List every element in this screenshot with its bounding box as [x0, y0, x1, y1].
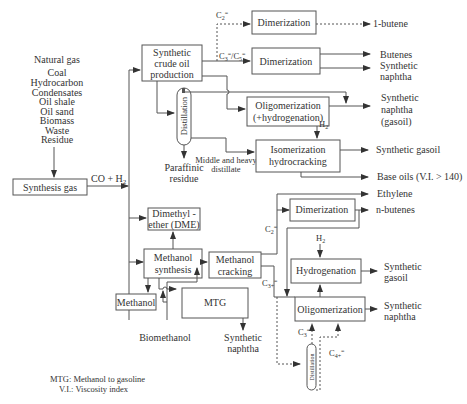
isomerization-label-2: hydrocracking — [269, 156, 327, 167]
crude-label-3: production — [150, 69, 193, 80]
arrow-to-base-oils — [301, 172, 368, 177]
c2-label-top: C2= — [216, 10, 229, 21]
dme-label-2: ether (DME) — [148, 219, 199, 231]
mtg-naphtha-label-2: naphtha — [227, 343, 259, 354]
product-naphtha-gasoil-2: naphtha — [381, 104, 413, 115]
c3plus-label: C3+= — [262, 278, 278, 289]
product-ethylene: Ethylene — [377, 188, 413, 199]
product-synthetic-naphtha-1: Synthetic — [380, 60, 418, 71]
distillation-small-label: Distillation — [309, 354, 315, 381]
arrow-middle-distillate — [191, 138, 254, 152]
product-synthetic-naphtha-2: naphtha — [380, 71, 412, 82]
distillation-label: Distillation — [179, 96, 189, 135]
product-synthetic-gasoil-b1: Synthetic — [384, 261, 422, 272]
olig-hyd-label-2: (+hydrogenation) — [253, 112, 323, 124]
product-base-oils: Base oils (V.I. > 140) — [377, 171, 462, 183]
product-n-butenes: n-butenes — [376, 204, 415, 215]
crude-label-2: crude oil — [154, 58, 189, 69]
dimerization-mid-label: Dimerization — [260, 56, 313, 67]
process-flow-diagram: Natural gas Coal Hydrocarbon Condensates… — [0, 0, 467, 404]
feedstock-natural-gas: Natural gas — [34, 54, 80, 65]
dimerization-low-label: Dimerization — [296, 204, 349, 215]
h2-label-lower: H2 — [316, 233, 325, 244]
product-synthetic-gasoil-b2: gasoil — [384, 272, 408, 283]
isomerization-label-1: Isomerization — [271, 144, 326, 155]
legend-mtg: MTG: Methanol to gasoline — [50, 374, 145, 384]
dimerization-top-label: Dimerization — [258, 17, 311, 28]
mtg-naphtha-label-1: Synthetic — [224, 332, 262, 343]
c3-c5-label: C3=/C5= — [219, 51, 246, 62]
methanol-synthesis-label-2: synthesis — [155, 264, 192, 275]
oligomerization-label: Oligomerization — [297, 304, 363, 315]
methanol-cracking-label-1: Methanol — [216, 254, 255, 265]
product-naphtha-gasoil-3: (gasoil) — [381, 116, 412, 128]
olig-hyd-label-1: Oligomerization — [255, 100, 321, 111]
c2-label-low: C2= — [265, 224, 278, 235]
hydrogenation-label: Hydrogenation — [296, 265, 356, 276]
middle-distillate-label-2: distillate — [211, 164, 241, 174]
arrow-crude-to-distillation — [157, 81, 174, 113]
product-synthetic-gasoil: Synthetic gasoil — [376, 144, 440, 155]
paraffinic-label-2: residue — [170, 173, 199, 184]
synthesis-gas-label: Synthesis gas — [23, 182, 77, 193]
product-synthetic-naphtha-b2: naphtha — [384, 311, 416, 322]
c3-label: C3= — [298, 327, 311, 338]
product-naphtha-gasoil-1: Synthetic — [381, 92, 419, 103]
feedstock-list: Natural gas Coal Hydrocarbon Condensates… — [31, 54, 84, 145]
legend-vi: V.I.: Viscosity index — [59, 384, 129, 394]
biomethanol-label: Biomethanol — [139, 332, 191, 343]
methanol-cracking-label-2: cracking — [218, 266, 252, 277]
dme-label-1: Dimethyl - — [152, 208, 196, 219]
co-h2-label: CO + H2 — [91, 173, 127, 186]
methanol-synthesis-label-1: Methanol — [154, 252, 193, 263]
crude-label-1: Synthetic — [153, 47, 191, 58]
methanol-label: Methanol — [117, 297, 156, 308]
product-butenes: Butenes — [380, 49, 412, 60]
c4plus-label: C4+= — [329, 348, 345, 359]
mtg-label: MTG — [204, 297, 226, 308]
product-1-butene: 1-butene — [373, 18, 409, 29]
feedstock-residue: Residue — [41, 134, 74, 145]
product-synthetic-naphtha-b1: Synthetic — [384, 300, 422, 311]
